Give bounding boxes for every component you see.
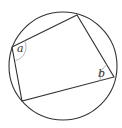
diagram-canvas: a b (0, 0, 122, 128)
circumscribed-circle (9, 12, 117, 120)
cyclic-quadrilateral-figure: a b (0, 0, 122, 128)
angle-label-b: b (98, 67, 105, 80)
inscribed-quadrilateral (12, 15, 114, 101)
angle-label-a: a (17, 42, 24, 55)
